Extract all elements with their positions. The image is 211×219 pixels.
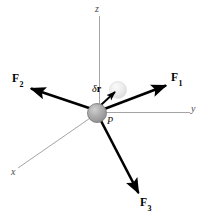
force-label-1-subscript: 1 [179,79,183,88]
displacement-vector-symbol: r [97,83,101,94]
diagram-canvas [0,0,211,219]
force-label-2: F2 [12,73,23,87]
force-label-3-subscript: 3 [148,204,152,213]
force-vector-2 [31,89,95,111]
force-label-3-symbol: F [140,196,147,208]
x-axis-line [18,114,96,168]
z-axis-label: z [95,4,99,14]
force-diagram-figure: z y x P δr F1 F2 F3 [0,0,211,219]
force-vector-3 [99,117,139,193]
force-label-3: F3 [140,197,151,211]
force-vectors [31,86,166,194]
force-label-2-subscript: 2 [20,80,24,89]
force-label-2-symbol: F [12,72,19,84]
y-axis-label: y [191,104,195,114]
point-p-label: P [107,116,113,126]
displacement-label: δr [92,84,101,94]
force-label-1-symbol: F [171,71,178,83]
force-label-1: F1 [171,72,182,86]
x-axis-label: x [11,167,15,177]
